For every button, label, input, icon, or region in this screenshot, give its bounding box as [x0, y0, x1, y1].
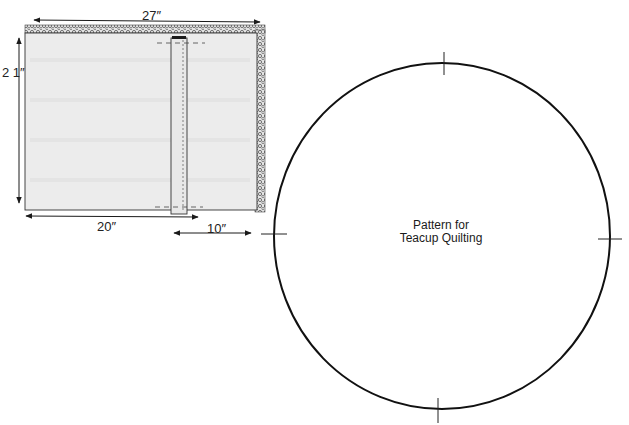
- dimension-height-label: 2 1″: [2, 65, 25, 80]
- fabric-piece: [25, 25, 265, 214]
- dimension-width-label: 27″: [142, 8, 161, 23]
- top-textured-edge: [25, 25, 265, 33]
- pattern-label: Pattern for Teacup Quilting: [341, 219, 541, 245]
- dimension-bottom-left-label: 20″: [97, 219, 116, 234]
- diagram-canvas: [0, 0, 629, 425]
- pattern-label-line2: Teacup Quilting: [341, 232, 541, 245]
- strip-top-band: [172, 36, 186, 39]
- folded-strip: [171, 38, 187, 214]
- bottom-left-arrow: [26, 216, 198, 217]
- dimension-bottom-right-label: 10″: [207, 221, 226, 236]
